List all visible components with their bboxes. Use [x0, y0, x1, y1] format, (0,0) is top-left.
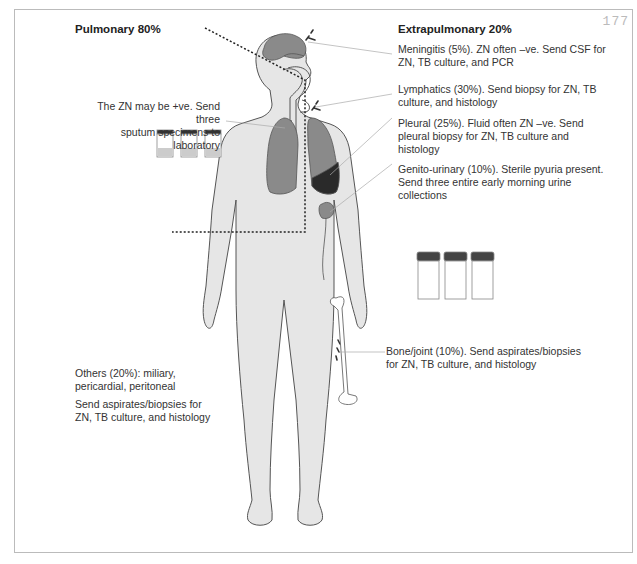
- annotation-others-send: Send aspirates/biopsies forZN, TB cultur…: [75, 398, 210, 424]
- heading-pulmonary: Pulmonary 80%: [75, 23, 161, 35]
- heading-extrapulmonary: Extrapulmonary 20%: [398, 23, 512, 35]
- annotation-sputum: The ZN may be +ve. Send threesputum spec…: [84, 100, 220, 152]
- annotation-lymphatics: Lymphatics (30%). Send biopsy for ZN, TB…: [398, 83, 596, 109]
- annotation-bone-joint: Bone/joint (10%). Send aspirates/biopsie…: [386, 345, 581, 371]
- annotation-pleural: Pleural (25%). Fluid often ZN –ve. Sendp…: [398, 117, 584, 156]
- body-silhouette: [203, 35, 367, 525]
- annotation-genito-urinary: Genito-urinary (10%). Sterile pyuria pre…: [398, 163, 603, 202]
- annotation-meningitis: Meningitis (5%). ZN often –ve. Send CSF …: [398, 43, 606, 69]
- annotation-others: Others (20%): miliary,pericardial, perit…: [75, 367, 176, 393]
- femur-bone: [330, 297, 357, 405]
- urine-collection-pots: [417, 252, 494, 299]
